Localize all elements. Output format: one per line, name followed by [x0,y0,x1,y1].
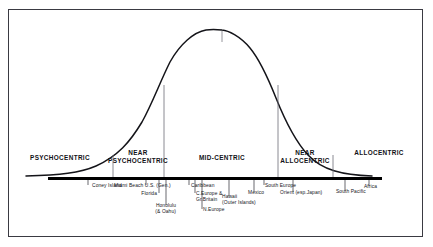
segment-label-mid-centric: MID-CENTRIC [199,154,245,162]
destination-label-south-europe: South Europe [265,183,296,189]
destination-label-n-europe: N.Europe [203,207,224,213]
segment-label-near-psychocentric: NEAR PSYCHOCENTRIC [108,149,168,164]
destination-label-orient-japan: Orient (esp.Japan) [280,190,322,196]
destination-label-africa: Africa [364,184,377,190]
destination-label-florida: Florida [141,191,157,197]
destination-label-south-pacific: South Pacific [336,189,366,195]
destination-label-c-europe-gr-britain: C.Europe & Gr.Britain [196,191,222,202]
destination-label-mexico: Mexico [248,190,264,196]
destination-label-miami-beach: Miami Beach U.S. (Gen.) [114,183,171,189]
segment-label-near-allocentric: NEAR ALLOCENTRIC [280,149,330,164]
destination-label-hawaii-outer: Hawaii (Outer Islands) [222,194,256,205]
destination-label-honolulu-oahu: Honolulu (& Oahu) [155,203,176,214]
segment-label-psychocentric: PSYCHOCENTRIC [30,154,90,162]
destination-label-caribbean: Caribbean [191,183,214,189]
figure-page: PSYCHOCENTRIC NEAR PSYCHOCENTRIC MID-CEN… [0,0,433,247]
segment-label-allocentric: ALLOCENTRIC [354,149,404,157]
